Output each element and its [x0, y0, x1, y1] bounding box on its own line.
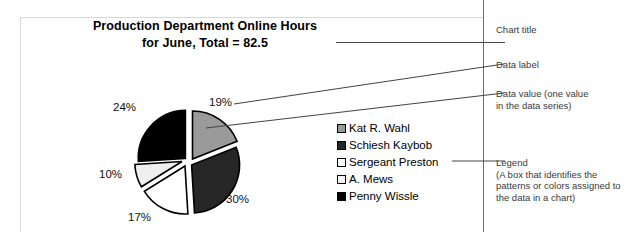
- legend: Kat R. Wahl Schiesh Kaybob Sergeant Pres…: [337, 120, 457, 205]
- legend-item-sergeant-preston: Sergeant Preston: [337, 154, 457, 170]
- pie-chart: [100, 96, 280, 232]
- data-label-24-percent: 24%: [113, 101, 136, 113]
- legend-swatch-icon: [337, 192, 346, 201]
- legend-swatch-icon: [337, 175, 346, 184]
- legend-label: Sergeant Preston: [349, 156, 439, 168]
- legend-label: Kat R. Wahl: [349, 122, 410, 134]
- pie-slice-penny-wissle: [138, 110, 185, 161]
- callout-data-value: Data value (one value in the data series…: [496, 88, 632, 111]
- legend-label: Schiesh Kaybob: [349, 139, 432, 151]
- legend-label: A. Mews: [349, 173, 393, 185]
- chart-title-line-2: for June, Total = 82.5: [60, 35, 350, 52]
- legend-item-a-mews: A. Mews: [337, 171, 457, 187]
- legend-swatch-icon: [337, 158, 346, 167]
- data-label-30-percent: 30%: [226, 193, 249, 205]
- data-label-19-percent: 19%: [209, 96, 232, 108]
- annotation-divider-line: [483, 0, 484, 232]
- legend-item-schiesh-kaybob: Schiesh Kaybob: [337, 137, 457, 153]
- callout-chart-title: Chart title: [496, 24, 537, 36]
- callout-legend: Legend (A box that identifies the patter…: [496, 157, 632, 203]
- data-label-10-percent: 10%: [99, 168, 122, 180]
- chart-title: Production Department Online Hours for J…: [60, 18, 350, 52]
- legend-swatch-icon: [337, 124, 346, 133]
- legend-swatch-icon: [337, 141, 346, 150]
- annotated-chart-figure: Production Department Online Hours for J…: [0, 0, 636, 232]
- legend-label: Penny Wissle: [349, 190, 419, 202]
- data-label-17-percent: 17%: [128, 211, 151, 223]
- legend-item-kat-r-wahl: Kat R. Wahl: [337, 120, 457, 136]
- chart-title-line-1: Production Department Online Hours: [93, 19, 317, 33]
- callout-data-label: Data label: [496, 59, 539, 71]
- legend-item-penny-wissle: Penny Wissle: [337, 188, 457, 204]
